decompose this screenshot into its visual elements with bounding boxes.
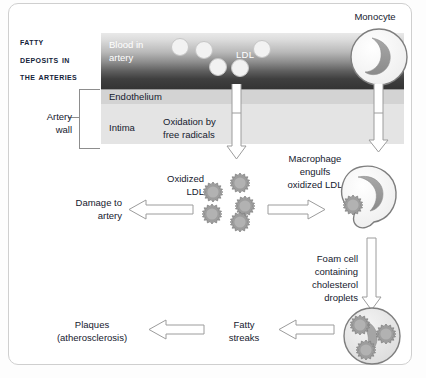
page-title: Fatty Deposits in the Arteries [20, 33, 106, 86]
oxidation-label: Oxidation by free radicals [163, 115, 241, 141]
plaques-label: Plaques (atherosclerosis) [44, 318, 140, 344]
intima-label: Intima [109, 122, 135, 133]
blood-in-artery-label: Blood in artery [109, 39, 143, 64]
ldl-particle [231, 59, 249, 77]
fatty-streaks-label: Fatty streaks [218, 318, 270, 344]
ldl-particle [253, 40, 271, 58]
foam-cell-label: Foam cell containing cholesterol droplet… [284, 252, 358, 304]
oxidized-ldl-label: Oxidized LDL [158, 172, 204, 198]
intima-band: Intima [101, 104, 404, 144]
title-line-1: Fatty [20, 33, 106, 51]
blood-lumen-band: Blood in artery LDL [101, 33, 404, 89]
ldl-particle [209, 58, 227, 76]
endothelium-label: Endothelium [109, 91, 162, 102]
ldl-particle [171, 38, 189, 56]
artery-wall-label: Artery wall [20, 110, 72, 136]
artery-cross-section: Blood in artery LDL Endothelium Intima [101, 33, 404, 113]
artery-wall-bracket [79, 89, 100, 149]
damage-to-artery-label: Damage to artery [52, 196, 122, 222]
title-line-3: the Arteries [20, 68, 106, 86]
macrophage-label: Macrophage engulfs oxidized LDL [276, 152, 354, 191]
ldl-particle [195, 41, 213, 59]
title-line-2: Deposits in [20, 51, 106, 69]
monocyte-label: Monocyte [340, 10, 410, 23]
fatty-deposits-diagram: Fatty Deposits in the Arteries Blood in … [0, 0, 426, 378]
